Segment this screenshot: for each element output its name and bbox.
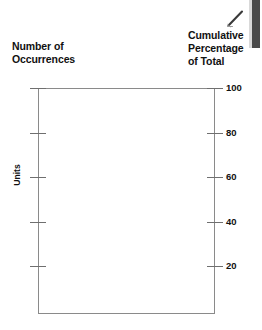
right-axis-tick-label: 100 [226, 83, 242, 93]
right-axis-tick-label: 60 [226, 172, 237, 182]
left-axis-unit-label: Units [12, 150, 22, 200]
left-axis-tick [30, 266, 46, 267]
right-axis-tick-label: 80 [226, 128, 237, 138]
right-axis-tick [207, 266, 223, 267]
plot-area [38, 88, 215, 314]
pareto-chart-figure: Number of Occurrences Cumulative Percent… [0, 0, 262, 330]
right-axis-tick [207, 222, 223, 223]
right-axis-tick [207, 88, 223, 89]
right-axis-title: Cumulative Percentage of Total [188, 29, 258, 67]
left-axis-tick [30, 222, 46, 223]
right-axis-tick [207, 133, 223, 134]
right-axis-tick-label: 20 [226, 261, 237, 271]
pen-mark-icon [225, 8, 247, 30]
left-axis-tick [30, 88, 46, 89]
left-axis-tick [30, 177, 46, 178]
left-axis-title: Number of Occurrences [12, 40, 122, 66]
left-axis-tick [30, 133, 46, 134]
right-axis-tick-label: 40 [226, 217, 237, 227]
right-axis-tick [207, 177, 223, 178]
